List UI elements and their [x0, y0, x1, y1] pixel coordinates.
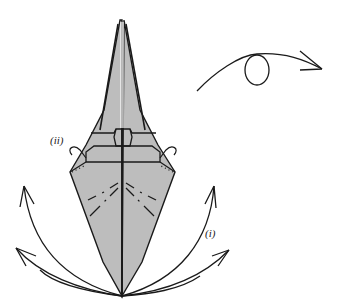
model-left-half	[70, 20, 122, 296]
folded-model	[70, 20, 176, 296]
origami-diagram: (ii) (i)	[0, 0, 342, 301]
turn-over-loop-arrow-icon	[197, 51, 322, 91]
label-step-i: (i)	[205, 227, 216, 240]
label-step-ii: (ii)	[50, 134, 64, 147]
model-right-half	[122, 20, 175, 296]
arrowhead-right-upper	[205, 186, 216, 208]
